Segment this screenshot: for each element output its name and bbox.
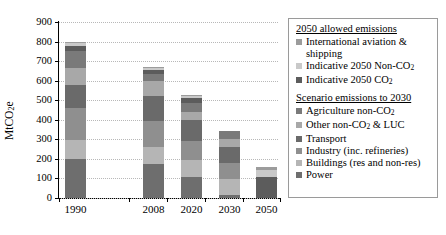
- bar-segment: [181, 95, 202, 96]
- bar-segment: [219, 139, 240, 147]
- bar-segment: [65, 46, 86, 51]
- bar-1990: [65, 42, 86, 198]
- legend-item-label: Buildings (res and non-res): [306, 157, 421, 169]
- y-tick-label: 800: [18, 36, 52, 48]
- legend-item[interactable]: Agriculture non-CO2: [294, 105, 433, 119]
- bar-segment: [65, 51, 86, 68]
- gridline: [59, 120, 278, 121]
- bar-segment: [143, 68, 164, 70]
- x-tick-mark: [205, 198, 206, 202]
- bar-segment: [65, 68, 86, 85]
- legend-item-label: Indicative 2050 Non-CO2: [306, 60, 414, 74]
- gridline: [59, 22, 278, 23]
- legend-swatch: [296, 63, 302, 69]
- legend-swatch: [296, 160, 302, 166]
- y-tick-label: 900: [18, 16, 52, 28]
- bar-segment: [181, 112, 202, 120]
- bar-segment: [256, 167, 277, 170]
- legend-item[interactable]: Transport: [294, 133, 433, 145]
- gridline: [59, 42, 278, 43]
- gridline: [59, 178, 278, 179]
- bar-segment: [65, 108, 86, 140]
- y-tick-label: 100: [18, 172, 52, 184]
- legend-item[interactable]: Power: [294, 169, 433, 181]
- legend-item[interactable]: Industry (inc. refineries): [294, 145, 433, 157]
- legend-item[interactable]: International aviation &: [294, 36, 433, 48]
- y-tick-mark: [55, 139, 59, 140]
- bar-segment: [65, 140, 86, 159]
- legend-item-label: Other non-CO2 & LUC: [306, 119, 405, 133]
- legend-swatch: [296, 77, 302, 83]
- bar-segment: [143, 81, 164, 96]
- y-tick-mark: [55, 159, 59, 160]
- bar-segment: [219, 147, 240, 163]
- bar-segment: [181, 120, 202, 141]
- legend-swatch: [296, 108, 302, 114]
- legend-swatch: [296, 136, 302, 142]
- y-tick-mark: [55, 100, 59, 101]
- legend-group-title: 2050 allowed emissions: [296, 23, 433, 35]
- bar-segment: [143, 96, 164, 121]
- legend-item-label: Power: [306, 169, 333, 181]
- bar-segment: [181, 177, 202, 198]
- bar-2050: [256, 167, 277, 198]
- bar-segment: [256, 170, 277, 178]
- bar-segment: [181, 98, 202, 103]
- bar-segment: [65, 42, 86, 44]
- bar-2020: [181, 95, 202, 198]
- y-tick-label: 0: [18, 192, 52, 204]
- bar-segment: [143, 147, 164, 165]
- bar-segment: [181, 96, 202, 98]
- bar-2008: [143, 67, 164, 198]
- legend-swatch: [296, 122, 302, 128]
- x-tick-mark: [243, 198, 244, 202]
- bar-segment: [65, 43, 86, 46]
- y-tick-label: 200: [18, 153, 52, 165]
- bar-segment: [219, 179, 240, 195]
- legend-item[interactable]: Indicative 2050 CO2: [294, 74, 433, 88]
- gridline: [59, 100, 278, 101]
- bar-segment: [181, 141, 202, 161]
- legend-item-label: Industry (inc. refineries): [306, 145, 408, 157]
- bar-segment: [65, 159, 86, 198]
- y-tick-mark: [55, 42, 59, 43]
- gridline: [59, 198, 278, 199]
- y-tick-mark: [55, 120, 59, 121]
- y-tick-mark: [55, 178, 59, 179]
- y-tick-label: 700: [18, 55, 52, 67]
- bar-segment: [219, 195, 240, 198]
- bar-segment: [219, 131, 240, 139]
- gridline: [59, 139, 278, 140]
- legend-item-label-line2: shipping: [306, 48, 433, 60]
- legend-group-title: Scenario emissions to 2030: [296, 92, 433, 104]
- x-tick-mark: [59, 198, 60, 202]
- bar-segment: [143, 70, 164, 74]
- gridline: [59, 61, 278, 62]
- bar-segment: [181, 160, 202, 177]
- bar-segment: [65, 85, 86, 108]
- legend-item[interactable]: Indicative 2050 Non-CO2: [294, 60, 433, 74]
- legend-item[interactable]: Other non-CO2 & LUC: [294, 119, 433, 133]
- x-tick-mark: [280, 198, 281, 202]
- legend-item-label: International aviation &: [306, 36, 407, 48]
- chart-figure: MtCO2e 0100200300400500600700800900 1990…: [0, 0, 446, 235]
- legend-swatch: [296, 172, 302, 178]
- x-tick-mark: [167, 198, 168, 202]
- legend-swatch: [296, 148, 302, 154]
- legend-swatch: [296, 39, 302, 45]
- x-tick-mark: [129, 198, 130, 202]
- legend-item-label: Indicative 2050 CO2: [306, 74, 393, 88]
- chart-legend: 2050 allowed emissionsInternational avia…: [288, 18, 438, 198]
- y-tick-mark: [55, 22, 59, 23]
- bar-segment: [219, 163, 240, 180]
- legend-item-label: Agriculture non-CO2: [306, 105, 395, 119]
- x-tick-label: 1990: [54, 203, 98, 215]
- y-tick-mark: [55, 81, 59, 82]
- legend-item[interactable]: Buildings (res and non-res): [294, 157, 433, 169]
- y-tick-label: 600: [18, 75, 52, 87]
- bar-segment: [143, 121, 164, 146]
- bar-segment: [143, 67, 164, 68]
- y-tick-label: 400: [18, 114, 52, 126]
- bar-segment: [256, 177, 277, 198]
- x-tick-label: 2050: [245, 203, 289, 215]
